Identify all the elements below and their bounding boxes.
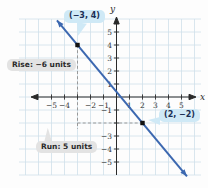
svg-text:4: 4 [107,41,112,50]
svg-text:3: 3 [107,54,112,63]
rise-callout: Rise: −6 units [7,59,76,71]
rise-label: Rise: −6 units [12,60,71,69]
svg-text:−2: −2 [85,101,96,110]
run-callout: Run: 5 units [36,141,97,153]
data-point [140,121,144,125]
svg-text:5: 5 [107,28,112,37]
x-axis-label: x [200,92,205,102]
point-callout-2-neg2: (2, −2) [159,109,200,122]
svg-text:−5: −5 [46,101,57,110]
svg-text:2: 2 [140,101,145,110]
callout-tail [75,22,87,36]
coordinate-plane: −5−4−2−11234554321−1−3−4−5xy [0,0,208,188]
svg-text:−4: −4 [101,145,112,154]
svg-text:−1: −1 [101,106,112,115]
svg-text:−4: −4 [59,101,70,110]
svg-text:3: 3 [153,101,158,110]
point-label: (−3, 4) [69,11,100,20]
data-point [75,43,79,47]
svg-text:−3: −3 [101,132,112,141]
run-label: Run: 5 units [41,142,92,151]
point-label: (2, −2) [164,110,195,119]
slope-graph-figure: −5−4−2−11234554321−1−3−4−5xy (−3, 4) (2,… [0,0,208,188]
svg-text:−5: −5 [101,158,112,167]
point-callout-neg3-4: (−3, 4) [64,10,105,23]
y-axis-label: y [109,4,116,14]
svg-text:2: 2 [107,67,112,76]
